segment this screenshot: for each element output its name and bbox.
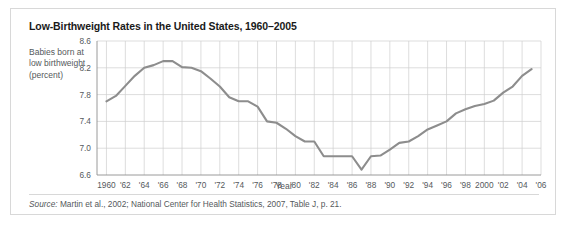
divider <box>29 194 539 195</box>
y-tick-label: 6.6 <box>79 170 91 180</box>
y-tick-label: 7.8 <box>79 90 91 100</box>
y-tick-label: 8.2 <box>79 63 91 73</box>
y-tick-labels: 8.68.27.87.47.06.6 <box>79 36 91 180</box>
x-axis-title: Year <box>11 181 557 191</box>
y-tick-label: 7.4 <box>79 116 91 126</box>
y-tick-label: 8.6 <box>79 36 91 46</box>
figure-panel: Low-Birthweight Rates in the United Stat… <box>10 8 556 215</box>
source-label: Source: <box>29 199 58 209</box>
source-note: Source: Martin et al., 2002; National Ce… <box>29 199 342 209</box>
data-series-line <box>106 61 531 170</box>
y-tick-label: 7.0 <box>79 143 91 153</box>
source-text: Martin et al., 2002; National Center for… <box>58 199 342 209</box>
